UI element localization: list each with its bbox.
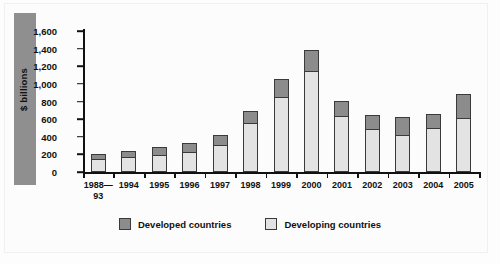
x-axis-label-line1: 1988—: [84, 180, 113, 190]
bar-segment-developing: [91, 159, 106, 172]
x-tick-mark: [479, 172, 481, 178]
bar-segment-developing: [365, 129, 380, 172]
bar-1994: [121, 151, 136, 172]
x-axis-label-line1: 2002: [362, 180, 382, 190]
bar-segment-developing: [152, 155, 167, 172]
x-axis-label: 1988—93: [83, 180, 113, 202]
x-tick-mark: [174, 172, 176, 178]
bar-2004: [426, 114, 441, 172]
x-axis-label: 2003: [388, 180, 418, 191]
y-tick-label: 800: [41, 96, 57, 107]
bar-segment-developing: [243, 123, 258, 172]
y-tick-label: 1,600: [33, 26, 57, 37]
x-axis-label: 2004: [418, 180, 448, 191]
x-axis-label: 1994: [113, 180, 143, 191]
x-tick-mark: [113, 172, 115, 178]
bar-segment-developing: [213, 145, 228, 172]
bar-segment-developed: [395, 117, 410, 135]
bar-segment-developing: [456, 118, 471, 172]
x-axis-label-line1: 1996: [180, 180, 200, 190]
x-axis-label: 2000: [296, 180, 326, 191]
y-tick-mark: [77, 83, 83, 85]
bar-segment-developed: [426, 114, 441, 128]
bar-segment-developing: [395, 135, 410, 172]
legend-item: Developing countries: [265, 218, 381, 230]
y-tick-mark: [77, 118, 83, 120]
bar-2003: [395, 117, 410, 172]
bar-segment-developed: [334, 101, 349, 116]
x-axis-label-line1: 2004: [423, 180, 443, 190]
legend-swatch: [265, 218, 277, 230]
legend-label: Developing countries: [284, 219, 381, 230]
bar-segment-developing: [274, 97, 289, 172]
x-axis-label-line1: 2003: [393, 180, 413, 190]
x-axis-label-line1: 1998: [241, 180, 261, 190]
x-tick-mark: [83, 172, 85, 178]
bar-segment-developed: [213, 135, 228, 145]
bar-segment-developed: [274, 79, 289, 98]
bar-segment-developing: [182, 152, 197, 172]
y-tick-mark: [77, 101, 83, 103]
y-tick-mark: [77, 48, 83, 50]
x-axis-label: 1998: [235, 180, 265, 191]
y-tick-label: 1,000: [33, 78, 57, 89]
x-tick-mark: [296, 172, 298, 178]
bar-1997: [213, 135, 228, 172]
bar-2005: [456, 94, 471, 172]
bar-segment-developing: [121, 157, 136, 172]
x-axis-label-line1: 2005: [454, 180, 474, 190]
x-axis-label: 1995: [144, 180, 174, 191]
x-tick-mark: [418, 172, 420, 178]
y-tick-label: 1,400: [33, 43, 57, 54]
x-axis-label-line1: 2000: [301, 180, 321, 190]
y-tick-label: 0: [52, 167, 57, 178]
bar-2002: [365, 115, 380, 172]
bar-segment-developing: [426, 128, 441, 172]
bar-2000: [304, 50, 319, 172]
y-tick-mark: [77, 136, 83, 138]
bar-segment-developed: [243, 111, 258, 122]
bar-1995: [152, 147, 167, 172]
chart-page: $ billions 02004006008001,0001,2001,4001…: [0, 0, 500, 264]
x-axis-label-line2: 93: [83, 191, 113, 202]
legend-swatch: [119, 218, 131, 230]
y-tick-label: 400: [41, 131, 57, 142]
chart-legend: Developed countriesDeveloping countries: [0, 218, 500, 230]
x-axis-label-line1: 1995: [149, 180, 169, 190]
bar-2001: [334, 101, 349, 172]
bar-1988-93: [91, 154, 106, 173]
x-axis-label-line1: 1999: [271, 180, 291, 190]
x-axis-label: 1999: [266, 180, 296, 191]
x-tick-mark: [327, 172, 329, 178]
x-tick-mark: [357, 172, 359, 178]
x-tick-mark: [449, 172, 451, 178]
bar-1999: [274, 79, 289, 172]
x-axis-line: [83, 172, 481, 174]
bar-segment-developed: [365, 115, 380, 129]
bar-segment-developing: [334, 116, 349, 172]
x-tick-mark: [266, 172, 268, 178]
legend-label: Developed countries: [138, 219, 231, 230]
x-axis-label: 2002: [357, 180, 387, 191]
legend-item: Developed countries: [119, 218, 231, 230]
x-axis-label-line1: 1997: [210, 180, 230, 190]
bar-segment-developed: [182, 143, 197, 152]
bar-segment-developed: [304, 50, 319, 70]
y-tick-label: 600: [41, 114, 57, 125]
plot-area: 02004006008001,0001,2001,4001,600: [83, 31, 479, 172]
y-tick-mark: [77, 30, 83, 32]
x-tick-mark: [388, 172, 390, 178]
y-tick-mark: [77, 154, 83, 156]
bar-1998: [243, 111, 258, 172]
x-axis-label: 2005: [449, 180, 479, 191]
bar-segment-developed: [456, 94, 471, 118]
x-axis-label: 1996: [174, 180, 204, 191]
y-axis-title: $ billions: [18, 45, 29, 135]
x-tick-mark: [235, 172, 237, 178]
bar-segment-developing: [304, 71, 319, 172]
x-tick-mark: [205, 172, 207, 178]
x-axis-label-line1: 2001: [332, 180, 352, 190]
y-tick-label: 1,200: [33, 61, 57, 72]
y-tick-label: 200: [41, 149, 57, 160]
x-tick-mark: [144, 172, 146, 178]
